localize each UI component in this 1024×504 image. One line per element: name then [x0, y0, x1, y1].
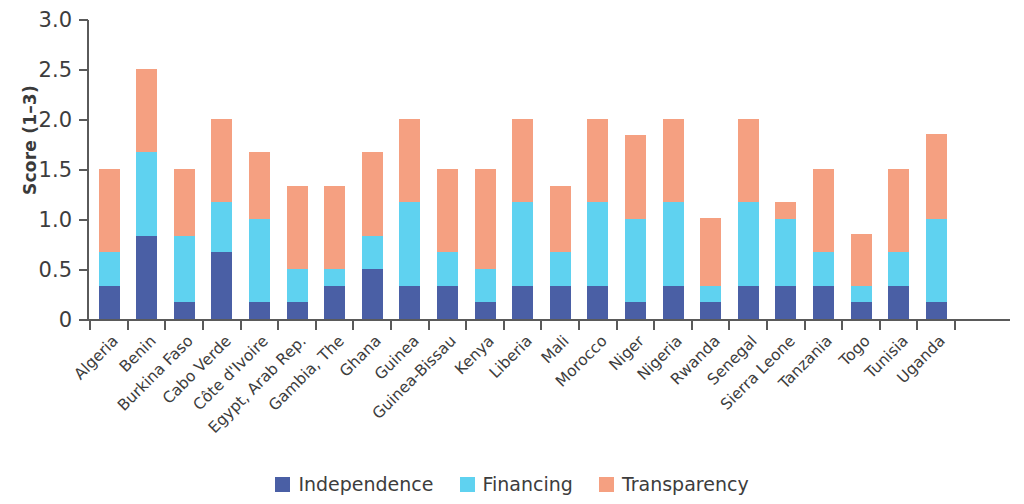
bar-segment[interactable] — [437, 286, 458, 319]
bar-segment[interactable] — [700, 302, 721, 319]
bar-segment[interactable] — [174, 169, 195, 236]
bar-segment[interactable] — [437, 169, 458, 252]
bar-stack[interactable] — [136, 69, 157, 319]
bar-stack[interactable] — [211, 119, 232, 319]
bar-segment[interactable] — [399, 202, 420, 286]
bar-segment[interactable] — [136, 152, 157, 236]
bar-segment[interactable] — [663, 286, 684, 319]
bar-segment[interactable] — [888, 169, 909, 252]
bar-stack[interactable] — [775, 202, 796, 319]
bar-segment[interactable] — [324, 269, 345, 286]
bar-segment[interactable] — [211, 252, 232, 319]
bar-segment[interactable] — [738, 202, 759, 286]
bar-stack[interactable] — [362, 152, 383, 319]
bar-stack[interactable] — [475, 169, 496, 319]
bar-stack[interactable] — [324, 186, 345, 319]
bar-stack[interactable] — [99, 169, 120, 319]
bar-stack[interactable] — [437, 169, 458, 319]
bar-segment[interactable] — [249, 152, 270, 219]
bar-segment[interactable] — [174, 302, 195, 319]
bar-segment[interactable] — [926, 302, 947, 319]
x-axis-tick — [691, 321, 693, 330]
bar-segment[interactable] — [625, 135, 646, 219]
bar-stack[interactable] — [399, 119, 420, 319]
legend-item[interactable]: Financing — [460, 473, 573, 495]
bar-segment[interactable] — [663, 202, 684, 286]
bar-segment[interactable] — [625, 302, 646, 319]
bar-segment[interactable] — [851, 302, 872, 319]
bar-segment[interactable] — [475, 302, 496, 319]
bar-stack[interactable] — [625, 135, 646, 319]
bar-segment[interactable] — [587, 119, 608, 202]
bar-segment[interactable] — [625, 219, 646, 302]
legend-item[interactable]: Transparency — [599, 473, 749, 495]
bar-segment[interactable] — [475, 169, 496, 269]
bar-stack[interactable] — [287, 186, 308, 319]
bar-segment[interactable] — [136, 236, 157, 319]
bar-segment[interactable] — [550, 252, 571, 286]
bar-segment[interactable] — [851, 286, 872, 302]
bar-stack[interactable] — [550, 186, 571, 319]
bar-segment[interactable] — [399, 286, 420, 319]
bar-segment[interactable] — [512, 119, 533, 202]
bar-segment[interactable] — [211, 202, 232, 252]
bar-segment[interactable] — [324, 286, 345, 319]
bar-stack[interactable] — [512, 119, 533, 319]
bar-segment[interactable] — [587, 202, 608, 286]
bar-segment[interactable] — [813, 286, 834, 319]
bar-stack[interactable] — [663, 119, 684, 319]
bar-segment[interactable] — [700, 218, 721, 286]
bar-segment[interactable] — [475, 269, 496, 302]
bar-segment[interactable] — [362, 236, 383, 269]
bar-segment[interactable] — [813, 252, 834, 286]
bar-stack[interactable] — [738, 119, 759, 319]
bar-segment[interactable] — [211, 119, 232, 202]
bar-stack[interactable] — [587, 119, 608, 319]
bar-segment[interactable] — [136, 69, 157, 152]
bar-segment[interactable] — [399, 119, 420, 202]
bar-segment[interactable] — [99, 169, 120, 252]
bar-segment[interactable] — [813, 169, 834, 252]
bar-segment[interactable] — [512, 202, 533, 286]
bar-segment[interactable] — [888, 286, 909, 319]
bar-stack[interactable] — [813, 169, 834, 319]
bar-segment[interactable] — [362, 269, 383, 319]
bar-stack[interactable] — [851, 234, 872, 319]
bar-segment[interactable] — [249, 302, 270, 319]
bar-segment[interactable] — [287, 302, 308, 319]
bar-segment[interactable] — [700, 286, 721, 302]
bar-stack[interactable] — [926, 134, 947, 319]
bar-segment[interactable] — [926, 219, 947, 302]
bar-segment[interactable] — [775, 286, 796, 319]
bar-segment[interactable] — [663, 119, 684, 202]
bar-segment[interactable] — [587, 286, 608, 319]
bar-segment[interactable] — [550, 286, 571, 319]
bar-stack[interactable] — [888, 169, 909, 319]
bar-segment[interactable] — [926, 134, 947, 219]
bar-stack[interactable] — [700, 218, 721, 319]
y-axis-tick — [79, 119, 88, 121]
bar-segment[interactable] — [738, 286, 759, 319]
bar-stack[interactable] — [249, 152, 270, 319]
bar-segment[interactable] — [550, 186, 571, 252]
bar-segment[interactable] — [99, 286, 120, 319]
bar-segment[interactable] — [287, 269, 308, 302]
legend-item[interactable]: Independence — [275, 473, 433, 495]
bar-segment[interactable] — [99, 252, 120, 286]
bar-segment[interactable] — [249, 219, 270, 302]
bar-segment[interactable] — [851, 234, 872, 286]
bar-segment[interactable] — [324, 186, 345, 269]
bar-segment[interactable] — [775, 202, 796, 219]
legend-swatch-icon — [275, 477, 290, 492]
bar-stack[interactable] — [174, 169, 195, 319]
bar-segment[interactable] — [775, 219, 796, 286]
bar-segment[interactable] — [174, 236, 195, 302]
bar-segment[interactable] — [738, 119, 759, 202]
chart-legend: IndependenceFinancingTransparency — [0, 473, 1024, 495]
bar-segment[interactable] — [437, 252, 458, 286]
bar-segment[interactable] — [888, 252, 909, 286]
bar-segment[interactable] — [512, 286, 533, 319]
bar-segment[interactable] — [362, 152, 383, 236]
legend-swatch-icon — [460, 477, 475, 492]
bar-segment[interactable] — [287, 186, 308, 269]
